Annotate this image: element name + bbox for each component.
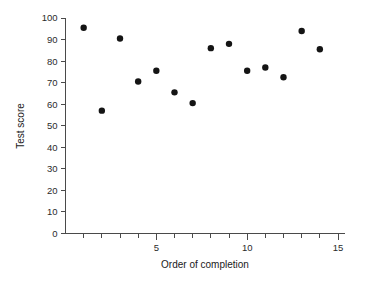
data-point-series [80,24,323,113]
data-point [153,68,159,74]
x-axis-tick-marks [84,234,338,240]
y-tick-label-30: 30 [47,163,58,174]
y-tick-label-90: 90 [47,34,58,45]
data-point [135,78,141,84]
data-point [189,100,195,106]
y-tick-label-40: 40 [47,142,58,153]
axis-spines [66,18,346,234]
data-point [262,64,268,70]
data-point [117,35,123,41]
data-point [244,68,250,74]
x-tick-label-10: 10 [242,242,253,253]
y-tick-label-100: 100 [42,12,58,23]
scatter-plot-figure: 0102030405060708090100 51015 Order of co… [0,0,368,285]
x-tick-label-5: 5 [154,242,159,253]
y-tick-label-60: 60 [47,99,58,110]
y-tick-label-70: 70 [47,77,58,88]
y-axis-title: Test score [15,103,26,149]
y-tick-label-10: 10 [47,206,58,217]
x-axis-tick-labels: 51015 [154,242,344,253]
x-axis-title: Order of completion [161,259,249,270]
plot-canvas: 0102030405060708090100 51015 Order of co… [0,0,368,285]
y-axis-tick-marks [61,18,66,234]
data-point [226,41,232,47]
data-point [280,74,286,80]
data-point [208,45,214,51]
y-axis-tick-labels: 0102030405060708090100 [42,12,58,239]
data-point [99,107,105,113]
y-tick-label-20: 20 [47,185,58,196]
y-tick-label-0: 0 [52,228,57,239]
data-point [298,28,304,34]
data-point [171,89,177,95]
data-point [80,24,86,30]
data-point [317,46,323,52]
y-tick-label-50: 50 [47,120,58,131]
x-tick-label-15: 15 [333,242,344,253]
y-tick-label-80: 80 [47,56,58,67]
